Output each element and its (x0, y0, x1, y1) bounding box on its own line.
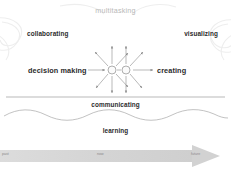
diagram-linework (0, 0, 231, 172)
timeline-label-now: now (97, 153, 104, 157)
wavy-line (4, 110, 228, 121)
node-label-decision-making: decision making (28, 67, 87, 74)
timeline-bar (0, 150, 192, 162)
node-label-collaborating: collaborating (27, 31, 68, 37)
radiating-arrows-group (95, 46, 143, 93)
hub-circle-left (108, 66, 116, 74)
arrow-right-hub-down-right (130, 74, 142, 88)
node-label-visualizing: visualizing (184, 31, 218, 37)
timeline-arrow (0, 145, 220, 167)
arrow-left-hub-down-left (96, 74, 108, 88)
node-label-communicating: communicating (91, 102, 140, 108)
timeline-label-past: past (2, 153, 9, 157)
arrow-right-hub-up-right (130, 52, 143, 66)
arrow-left-hub-up-left (95, 52, 108, 66)
timeline-label-future: future (191, 153, 200, 157)
diagram-canvas: multitasking collaborating visualizing d… (0, 0, 231, 172)
hub-circle-right (122, 66, 130, 74)
diagram-title: multitasking (95, 7, 135, 14)
node-label-learning: learning (103, 128, 129, 134)
node-label-creating: creating (157, 67, 186, 74)
